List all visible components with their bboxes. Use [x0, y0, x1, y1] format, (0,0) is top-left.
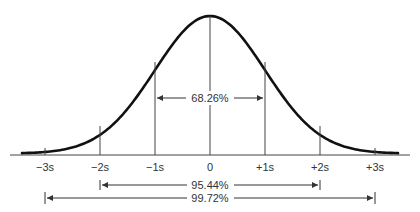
sd-lines [45, 16, 375, 155]
label-95: 95.44% [191, 179, 229, 191]
label-plus-2s: +2s [311, 161, 330, 173]
label-68: 68.26% [191, 92, 229, 104]
label-minus-1s: −1s [146, 161, 165, 173]
label-plus-1s: +1s [256, 161, 275, 173]
label-plus-3s: +3s [366, 161, 385, 173]
normal-distribution-diagram: −3s −2s −1s 0 +1s +2s +3s 68.26% 95.44% … [0, 0, 420, 212]
axis-labels: −3s −2s −1s 0 +1s +2s +3s [36, 161, 385, 173]
label-minus-2s: −2s [91, 161, 110, 173]
label-minus-3s: −3s [36, 161, 55, 173]
interval-95: 95.44% [100, 179, 320, 191]
label-99: 99.72% [191, 192, 229, 204]
interval-68: 68.26% [157, 91, 263, 105]
label-mean: 0 [207, 161, 213, 173]
interval-99: 99.72% [45, 192, 375, 204]
